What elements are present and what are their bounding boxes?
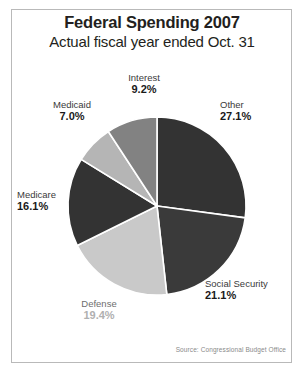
pie-label-social-security-name: Social Security [205,278,268,289]
pie-label-defense: Defense 19.4% [60,298,138,321]
chart-figure: Federal Spending 2007 Actual fiscal year… [0,0,304,374]
pie-svg [0,0,304,374]
pie-label-social-security-value: 21.1% [205,290,289,302]
pie-label-defense-value: 19.4% [60,310,138,322]
pie-label-medicare-value: 16.1% [17,201,87,213]
pie-label-medicaid: Medicaid 7.0% [34,99,110,122]
chart-source-note: Source: Congressional Budget Office [176,346,286,353]
pie-label-medicare: Medicare 16.1% [17,189,87,212]
pie-label-interest-name: Interest [128,72,160,83]
pie-label-social-security: Social Security 21.1% [205,278,289,301]
pie-label-other: Other 27.1% [220,99,290,122]
pie-slice-other [157,117,246,218]
pie-label-interest: Interest 9.2% [102,72,186,95]
pie-label-medicaid-name: Medicaid [53,99,91,110]
pie-label-other-name: Other [220,99,244,110]
pie-slice-group [68,117,246,295]
pie-label-defense-name: Defense [81,298,116,309]
pie-chart [0,0,304,374]
pie-label-other-value: 27.1% [220,111,290,123]
pie-label-medicaid-value: 7.0% [34,111,110,123]
pie-label-medicare-name: Medicare [17,189,56,200]
pie-label-interest-value: 9.2% [102,84,186,96]
